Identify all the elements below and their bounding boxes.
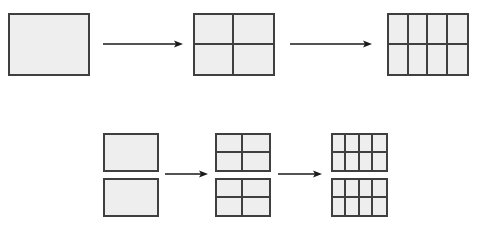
grid-cell — [105, 135, 157, 170]
grid-cell — [346, 153, 359, 171]
grid-cell — [346, 135, 359, 153]
grid-cell — [243, 198, 269, 216]
grid-cell — [217, 180, 243, 198]
diagram-canvas — [0, 0, 483, 228]
grid-cell — [243, 135, 269, 153]
grid-cell — [360, 135, 373, 153]
grid-cell — [243, 153, 269, 171]
grid-cell — [333, 198, 346, 216]
rectangle-4x2-bottom — [331, 178, 388, 217]
grid-cell — [105, 180, 157, 215]
grid-cell — [217, 198, 243, 216]
rectangle-2x2-bottom — [215, 178, 271, 217]
grid-cell — [333, 135, 346, 153]
grid-cell — [373, 135, 386, 153]
grid-cell — [333, 180, 346, 198]
grid-cell — [346, 198, 359, 216]
rectangle-4x2-top — [331, 133, 388, 172]
grid-cell — [333, 153, 346, 171]
rectangle-whole-top — [103, 133, 159, 172]
grid-cell — [243, 180, 269, 198]
rectangle-whole-bottom — [103, 178, 159, 217]
grid-cell — [360, 180, 373, 198]
grid-cell — [373, 198, 386, 216]
stacked-rectangles-row — [0, 0, 483, 228]
grid-cell — [217, 135, 243, 153]
arrow-row2-step2-to-step3 — [278, 168, 322, 180]
grid-cell — [360, 198, 373, 216]
grid-cell — [360, 153, 373, 171]
rectangle-2x2-top — [215, 133, 271, 172]
grid-cell — [373, 180, 386, 198]
grid-cell — [217, 153, 243, 171]
arrow-row2-step1-to-step2 — [165, 168, 208, 180]
grid-cell — [346, 180, 359, 198]
grid-cell — [373, 153, 386, 171]
